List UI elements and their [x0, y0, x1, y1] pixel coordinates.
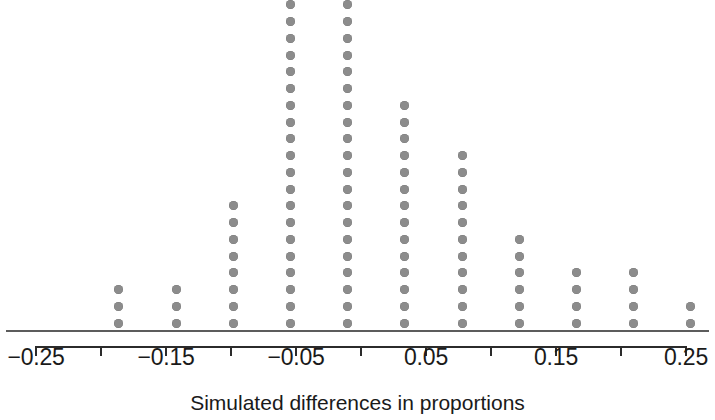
data-dot [458, 185, 467, 194]
axis-tick [490, 346, 492, 356]
data-dot [629, 285, 638, 294]
data-dot [458, 285, 467, 294]
data-dot [400, 235, 409, 244]
axis-tick [100, 346, 102, 356]
data-dot [343, 67, 352, 76]
data-dot [458, 319, 467, 328]
data-dot [229, 285, 238, 294]
data-dot [458, 151, 467, 160]
data-dot [515, 285, 524, 294]
axis-tick [620, 346, 622, 356]
data-dot [629, 319, 638, 328]
data-dot [286, 201, 295, 210]
data-dot [400, 285, 409, 294]
data-dot [515, 235, 524, 244]
data-dot [400, 168, 409, 177]
data-dot [458, 252, 467, 261]
axis-tick [230, 346, 232, 356]
data-dot [114, 319, 123, 328]
data-dot [458, 302, 467, 311]
data-dot [400, 118, 409, 127]
data-dot [629, 268, 638, 277]
data-dot [229, 252, 238, 261]
data-dot [286, 67, 295, 76]
axis-tick-label: −0.05 [267, 343, 324, 371]
data-dot [229, 201, 238, 210]
data-dot [629, 302, 638, 311]
data-dot [343, 218, 352, 227]
data-dot [286, 34, 295, 43]
data-dot [286, 268, 295, 277]
data-dot [515, 252, 524, 261]
data-dot [343, 252, 352, 261]
data-baseline [6, 330, 709, 332]
data-dot [343, 17, 352, 26]
data-dot [400, 218, 409, 227]
data-dot [343, 34, 352, 43]
data-dot [343, 101, 352, 110]
data-dot [286, 185, 295, 194]
data-dot [172, 285, 181, 294]
data-dot [286, 168, 295, 177]
data-dot [400, 201, 409, 210]
data-dot [286, 319, 295, 328]
axis-tick-label: −0.15 [137, 343, 194, 371]
data-dot [572, 302, 581, 311]
data-dot [172, 319, 181, 328]
data-dot [229, 235, 238, 244]
data-dot [114, 285, 123, 294]
data-dot [400, 268, 409, 277]
data-dot [572, 285, 581, 294]
data-dot [343, 285, 352, 294]
data-dot [458, 218, 467, 227]
axis-tick-label: 0.15 [534, 343, 578, 371]
data-dot [343, 235, 352, 244]
data-dot [343, 201, 352, 210]
data-dot [286, 101, 295, 110]
data-dot [515, 319, 524, 328]
data-dot [343, 84, 352, 93]
dotplot-figure: −0.25−0.15−0.050.050.150.25 Simulated di… [0, 0, 715, 420]
data-dot [172, 302, 181, 311]
data-dot [286, 285, 295, 294]
data-dot [286, 252, 295, 261]
data-dot [286, 302, 295, 311]
data-dot [286, 0, 295, 9]
data-dot [343, 319, 352, 328]
data-dot [458, 268, 467, 277]
data-dot [400, 302, 409, 311]
data-dot [572, 268, 581, 277]
data-dot [229, 268, 238, 277]
data-dot [343, 134, 352, 143]
data-dot [286, 17, 295, 26]
data-dot [286, 51, 295, 60]
data-dot [458, 201, 467, 210]
data-dot [686, 302, 695, 311]
data-dot [515, 268, 524, 277]
x-axis [0, 336, 715, 366]
data-dot [286, 84, 295, 93]
data-dot [400, 151, 409, 160]
data-dot [343, 151, 352, 160]
axis-tick-label: 0.25 [664, 343, 708, 371]
data-dot [400, 101, 409, 110]
data-dot [343, 268, 352, 277]
data-dot [343, 118, 352, 127]
data-dot [343, 302, 352, 311]
x-axis-title: Simulated differences in proportions [0, 390, 715, 416]
data-dot [400, 185, 409, 194]
data-dot [229, 218, 238, 227]
data-dot [343, 51, 352, 60]
axis-tick-label: −0.25 [7, 343, 64, 371]
axis-tick-label: 0.05 [404, 343, 448, 371]
data-dot [686, 319, 695, 328]
data-dot [400, 252, 409, 261]
data-dot [458, 235, 467, 244]
data-dot [286, 235, 295, 244]
data-dot [286, 151, 295, 160]
data-dot [114, 302, 123, 311]
data-dot [515, 302, 524, 311]
data-dot [343, 0, 352, 9]
data-dot [458, 168, 467, 177]
data-dot [286, 118, 295, 127]
